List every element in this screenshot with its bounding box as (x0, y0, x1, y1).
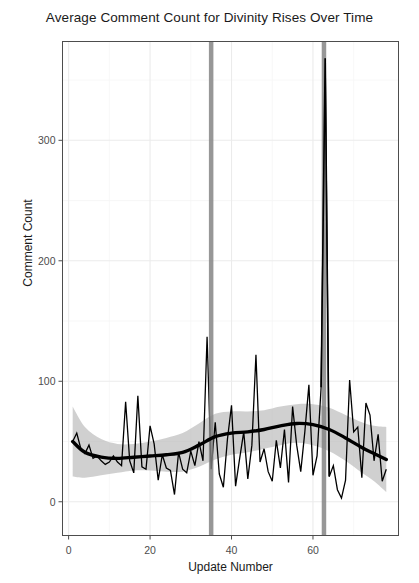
plot-area (0, 0, 419, 583)
chart-container: Average Comment Count for Divinity Rises… (0, 0, 419, 583)
